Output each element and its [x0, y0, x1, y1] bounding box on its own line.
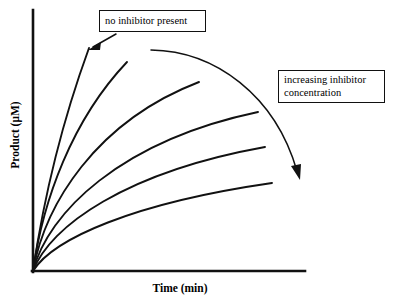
no-inhibitor-pointer: [88, 34, 116, 50]
callout-no-inhibitor-label: no inhibitor present: [105, 15, 187, 27]
callout-increasing-inhibitor: increasing inhibitor concentration: [278, 70, 385, 103]
increasing-inhibitor-arc: [151, 50, 297, 171]
curve-inhibitor-5: [33, 183, 272, 271]
plot-canvas: [0, 0, 395, 305]
no-inhibitor-arrowhead: [88, 42, 101, 50]
callout-increasing-inhibitor-line1: increasing inhibitor: [284, 74, 380, 86]
callout-increasing-inhibitor-line2: concentration: [284, 87, 380, 99]
callout-no-inhibitor: no inhibitor present: [99, 10, 206, 32]
enzyme-progress-curve-figure: no inhibitor present increasing inhibito…: [0, 0, 395, 305]
increasing-inhibitor-arrowhead: [291, 164, 301, 180]
x-axis-title: Time (min): [120, 282, 240, 294]
progress-curves-group: [33, 48, 272, 271]
y-axis-title: Product (μM): [9, 90, 21, 180]
